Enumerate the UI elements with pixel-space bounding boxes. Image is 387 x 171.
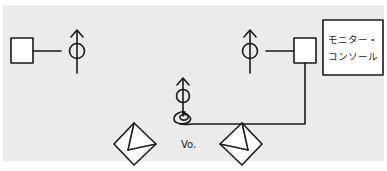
vocal-label: Vo. [181, 139, 196, 150]
monitor-console-line2: コンソール [328, 48, 378, 65]
right-microphone-icon [243, 30, 258, 73]
coiled-cable [174, 63, 305, 124]
right-speaker-icon [220, 123, 262, 165]
vocal-microphone-icon [177, 78, 190, 116]
left-speaker-icon [114, 123, 156, 165]
monitor-console-label: モニター・ コンソール [323, 20, 383, 75]
left-device-box [11, 38, 33, 63]
monitor-console-line1: モニター・ [328, 31, 378, 48]
diagram-canvas: モニター・ コンソール Vo. [0, 0, 387, 171]
right-device-box [294, 38, 316, 63]
left-device-group [11, 30, 85, 73]
left-microphone-icon [70, 30, 85, 73]
